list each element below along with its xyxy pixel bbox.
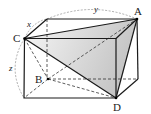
prism-diagram: A B C D x y z (0, 0, 151, 114)
arc-y (47, 10, 137, 20)
label-y: y (93, 4, 98, 14)
label-x: x (26, 19, 31, 29)
arc-z (15, 39, 24, 99)
label-z: z (8, 63, 13, 73)
label-b: B (35, 73, 42, 85)
point-d (115, 97, 118, 100)
label-a: A (134, 5, 142, 17)
point-b (47, 78, 50, 81)
point-a (136, 18, 139, 21)
point-c (23, 37, 26, 40)
label-d: D (113, 101, 121, 113)
label-c: C (13, 32, 20, 44)
